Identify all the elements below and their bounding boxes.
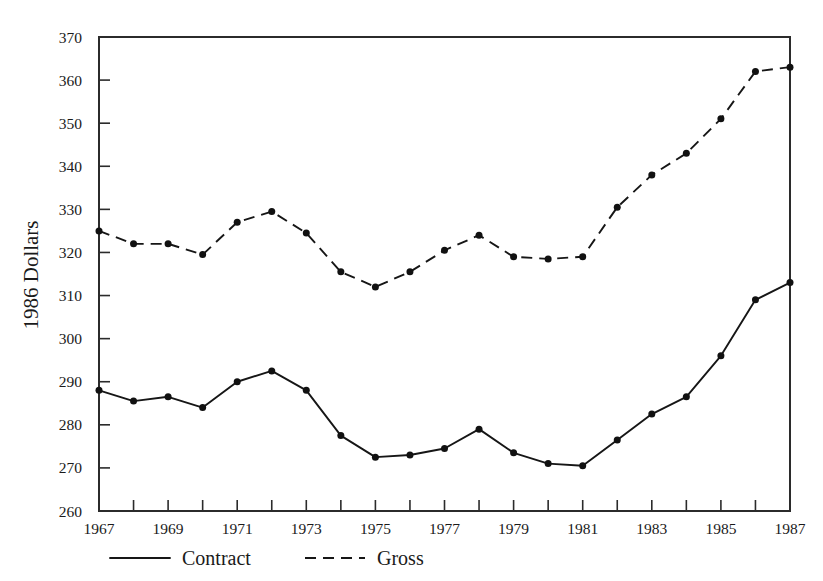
- data-point-gross-1969: [165, 240, 172, 247]
- x-tick-label: 1969: [153, 520, 184, 537]
- data-point-contract-1973: [303, 387, 310, 394]
- data-point-contract-1974: [337, 432, 344, 439]
- data-point-contract-1983: [648, 411, 655, 418]
- x-tick-label: 1987: [775, 520, 806, 537]
- data-point-gross-1976: [406, 268, 413, 275]
- data-point-gross-1987: [787, 64, 794, 71]
- y-tick-label: 300: [59, 330, 83, 347]
- data-point-gross-1974: [337, 268, 344, 275]
- data-point-contract-1971: [234, 378, 241, 385]
- legend-label-contract: Contract: [182, 547, 251, 569]
- data-point-gross-1980: [545, 255, 552, 262]
- data-point-gross-1981: [579, 253, 586, 260]
- data-point-contract-1975: [372, 454, 379, 461]
- y-tick-label: 360: [59, 72, 83, 89]
- y-tick-label: 270: [59, 459, 83, 476]
- data-point-contract-1967: [96, 387, 103, 394]
- x-tick-label: 1977: [429, 520, 460, 537]
- y-tick-label: 290: [59, 373, 83, 390]
- x-axis-tick-labels: 1967196919711973197519771979198119831985…: [84, 520, 806, 537]
- data-point-gross-1986: [752, 68, 759, 75]
- data-point-contract-1968: [130, 398, 137, 405]
- data-point-contract-1977: [441, 445, 448, 452]
- data-point-gross-1971: [234, 219, 241, 226]
- data-point-contract-1979: [510, 449, 517, 456]
- plot-border: [99, 37, 790, 511]
- data-point-contract-1986: [752, 296, 759, 303]
- y-tick-label: 320: [59, 244, 83, 261]
- data-point-gross-1979: [510, 253, 517, 260]
- data-point-gross-1968: [130, 240, 137, 247]
- x-tick-label: 1983: [636, 520, 667, 537]
- data-point-contract-1987: [787, 279, 794, 286]
- y-tick-label: 310: [59, 287, 83, 304]
- series-gross: [96, 64, 794, 291]
- data-point-contract-1972: [268, 367, 275, 374]
- series-layer: [96, 64, 794, 470]
- data-point-gross-1973: [303, 230, 310, 237]
- y-axis-tick-labels: 260270280290300310320330340350360370: [59, 29, 83, 520]
- y-axis-title: 1986 Dollars: [19, 220, 43, 329]
- data-point-gross-1978: [476, 232, 483, 239]
- data-point-gross-1972: [268, 208, 275, 215]
- data-point-contract-1969: [165, 393, 172, 400]
- data-point-contract-1978: [476, 426, 483, 433]
- data-point-gross-1975: [372, 283, 379, 290]
- chart-legend: ContractGross: [110, 547, 424, 569]
- x-tick-label: 1971: [222, 520, 253, 537]
- x-tick-label: 1985: [705, 520, 736, 537]
- data-point-contract-1970: [199, 404, 206, 411]
- data-point-contract-1984: [683, 393, 690, 400]
- x-tick-label: 1981: [567, 520, 598, 537]
- y-tick-label: 350: [59, 115, 83, 132]
- data-point-contract-1982: [614, 436, 621, 443]
- x-tick-label: 1973: [291, 520, 322, 537]
- data-point-gross-1983: [648, 171, 655, 178]
- series-contract: [96, 279, 794, 469]
- y-tick-label: 260: [59, 503, 83, 520]
- y-axis-title-label: 1986 Dollars: [19, 220, 43, 329]
- y-tick-label: 280: [59, 416, 83, 433]
- x-tick-label: 1967: [84, 520, 115, 537]
- y-axis-tick-marks: [99, 37, 110, 511]
- data-point-gross-1985: [717, 115, 724, 122]
- series-path-contract: [99, 283, 790, 466]
- data-point-gross-1970: [199, 251, 206, 258]
- legend-label-gross: Gross: [377, 547, 424, 569]
- line-chart: 1986 Dollars 260270280290300310320330340…: [0, 0, 823, 581]
- data-point-gross-1984: [683, 150, 690, 157]
- y-tick-label: 340: [59, 158, 83, 175]
- chart-container: 1986 Dollars 260270280290300310320330340…: [0, 0, 823, 581]
- x-axis-tick-marks: [99, 500, 790, 511]
- x-tick-label: 1979: [498, 520, 529, 537]
- data-point-contract-1980: [545, 460, 552, 467]
- data-point-gross-1977: [441, 247, 448, 254]
- plot-frame: [99, 37, 790, 511]
- data-point-gross-1967: [96, 227, 103, 234]
- y-tick-label: 330: [59, 201, 83, 218]
- x-tick-label: 1975: [360, 520, 391, 537]
- data-point-contract-1976: [406, 451, 413, 458]
- y-tick-label: 370: [59, 29, 83, 46]
- data-point-gross-1982: [614, 204, 621, 211]
- data-point-contract-1981: [579, 462, 586, 469]
- data-point-contract-1985: [717, 352, 724, 359]
